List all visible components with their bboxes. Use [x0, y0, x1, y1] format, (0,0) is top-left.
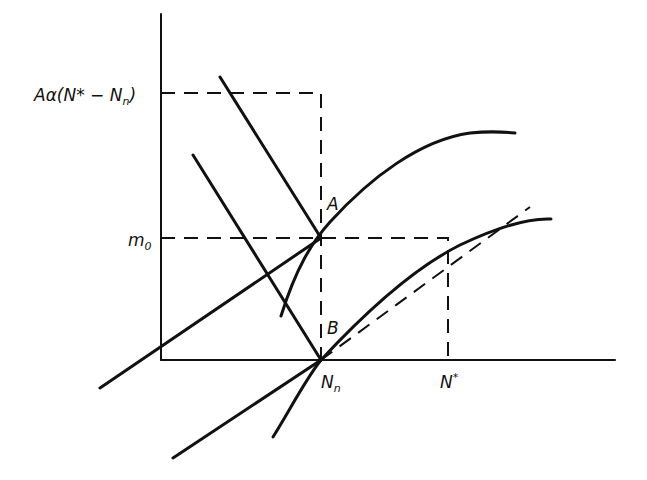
ray-through-a [100, 238, 321, 388]
nstar-label: N* [440, 371, 459, 392]
nn-label: Nn [321, 372, 341, 395]
lower-curve [273, 219, 551, 437]
point-b-label: B [327, 318, 339, 338]
y-top-label: Aα(N* − Nn) [33, 85, 136, 108]
point-a-label: A [326, 194, 339, 214]
m0-label: m0 [128, 230, 152, 253]
diagram-canvas: Aα(N* − Nn) m0 A B Nn N* [0, 0, 647, 480]
lower-steep-line [193, 155, 321, 360]
upper-steep-line [220, 77, 321, 238]
ray-through-nn [173, 360, 321, 458]
